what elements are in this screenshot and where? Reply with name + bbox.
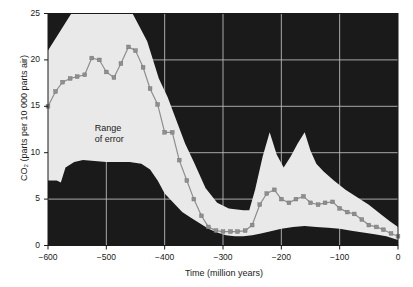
annotation-line-1: Range [95,123,124,134]
y-tick-label: 20 [18,54,40,64]
co2-vs-time-chart: CO₂ (parts per 10 000 parts air) Time (m… [0,0,413,287]
y-tick-label: 25 [18,8,40,18]
x-axis-label: Time (million years) [144,268,304,278]
x-tick-label: −100 [320,252,360,262]
x-tick-label: −300 [203,252,243,262]
annotation-line-2: of error [95,134,124,145]
x-tick-label: −500 [86,252,126,262]
x-tick-label: 0 [378,252,413,262]
x-tick-label: −400 [145,252,185,262]
y-tick-label: 15 [18,100,40,110]
x-tick-label: −200 [261,252,301,262]
range-of-error-annotation: Rangeof error [95,123,124,145]
chart-canvas [0,0,413,287]
x-tick-label: −600 [28,252,68,262]
y-tick-label: 0 [18,240,40,250]
y-tick-label: 5 [18,193,40,203]
y-tick-label: 10 [18,147,40,157]
